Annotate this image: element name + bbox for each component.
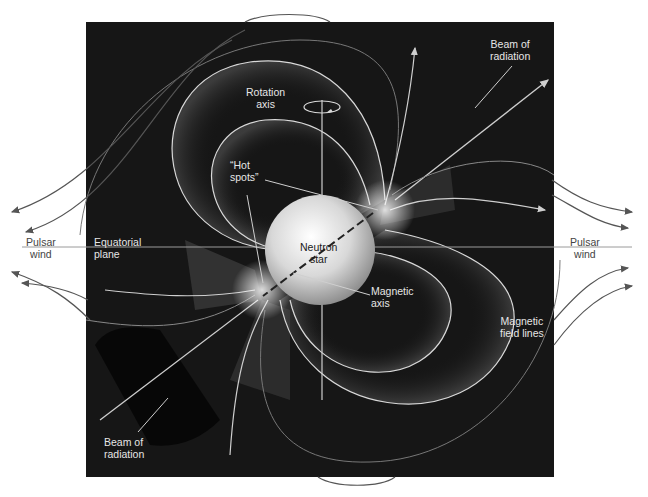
label-pulsar-wind-right: Pulsar wind: [570, 236, 600, 260]
label-line: “Hot: [230, 159, 259, 171]
label-line: Pulsar: [570, 236, 600, 248]
label-line: axis: [246, 98, 285, 110]
label-line: wind: [570, 248, 600, 260]
label-line: Magnetic: [371, 285, 414, 297]
label-line: Beam of: [490, 38, 530, 50]
label-line: Beam of: [104, 436, 144, 448]
pulsar-diagram: Rotation axis Beam of radiation “Hot spo…: [0, 0, 648, 497]
label-line: radiation: [490, 50, 530, 62]
label-line: star: [300, 253, 337, 265]
label-hot-spots: “Hot spots”: [230, 159, 259, 183]
label-rotation-axis: Rotation axis: [246, 86, 285, 110]
label-beam-bottom: Beam of radiation: [104, 436, 144, 460]
label-line: Rotation: [246, 86, 285, 98]
label-line: spots”: [230, 171, 259, 183]
label-line: Equatorial: [94, 236, 141, 248]
label-line: Neutron: [300, 241, 337, 253]
label-line: Pulsar: [26, 236, 56, 248]
label-line: axis: [371, 297, 414, 309]
label-equatorial-plane: Equatorial plane: [94, 236, 141, 260]
label-line: wind: [26, 248, 56, 260]
label-neutron-star: Neutron star: [300, 241, 337, 265]
label-line: Magnetic: [500, 315, 544, 327]
label-line: plane: [94, 248, 141, 260]
label-magnetic-field-lines: Magnetic field lines: [500, 315, 544, 339]
label-pulsar-wind-left: Pulsar wind: [26, 236, 56, 260]
label-line: radiation: [104, 448, 144, 460]
label-magnetic-axis: Magnetic axis: [371, 285, 414, 309]
label-beam-top: Beam of radiation: [490, 38, 530, 62]
label-line: field lines: [500, 327, 544, 339]
